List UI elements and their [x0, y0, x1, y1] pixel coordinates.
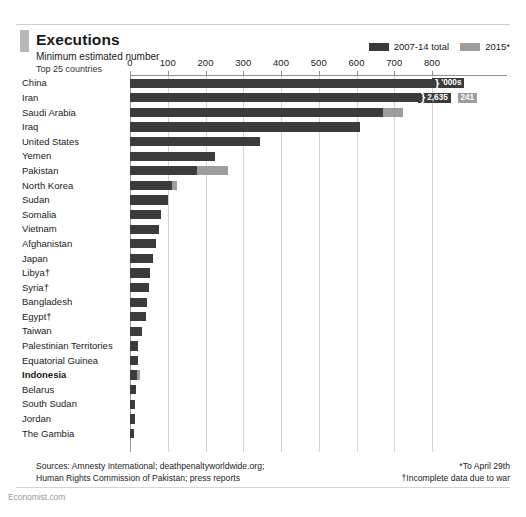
bar-segment-total — [130, 108, 383, 117]
bar-segment-2015 — [383, 108, 403, 117]
tick-label-500: 500 — [311, 57, 327, 68]
bar-segment-total — [130, 370, 137, 379]
bar-segment-total — [130, 400, 135, 409]
category-label: South Sudan — [22, 398, 126, 409]
category-label: Vietnam — [22, 223, 126, 234]
bar-row: China}'000s — [130, 76, 432, 91]
plot-area: 0100200300400500600700800 China}'000sIra… — [130, 76, 432, 450]
category-label: Palestinian Territories — [22, 340, 126, 351]
bar-segment-total — [130, 122, 360, 131]
bar-segment-total — [130, 152, 215, 161]
category-label: United States — [22, 136, 126, 147]
tick-label-100: 100 — [160, 57, 176, 68]
gridline-800 — [432, 76, 433, 452]
tick-300 — [243, 71, 244, 75]
bar-row: Iraq — [130, 120, 432, 135]
tick-label-200: 200 — [198, 57, 214, 68]
bar-value-badge-total: }'000s — [432, 78, 464, 88]
category-label: China — [22, 77, 126, 88]
bar-value-badge-total: }2,635 — [418, 93, 451, 103]
tick-700 — [394, 71, 395, 75]
bar-value-badge-2015: 241 — [458, 93, 478, 103]
bar-segment-total — [130, 268, 150, 277]
bar-row: Palestinian Territories — [130, 339, 432, 354]
legend-swatch-2015 — [460, 43, 480, 51]
category-label: Pakistan — [22, 165, 126, 176]
category-label: Yemen — [22, 150, 126, 161]
category-label: Jordan — [22, 413, 126, 424]
bar-segment-total — [130, 195, 168, 204]
bar-value-label: 241 — [461, 93, 475, 103]
tick-800 — [432, 71, 433, 75]
bar-row: The Gambia — [130, 426, 432, 441]
bar-row: Somalia — [130, 207, 432, 222]
bar-row: South Sudan — [130, 397, 432, 412]
bar-segment-total — [130, 181, 172, 190]
tick-label-600: 600 — [349, 57, 365, 68]
bottom-divider — [16, 487, 510, 488]
bar-value-label: '000s — [441, 78, 461, 88]
bar-row: Egypt† — [130, 310, 432, 325]
sources-line-2: Human Rights Commission of Pakistan; pre… — [36, 473, 264, 485]
category-label: The Gambia — [22, 428, 126, 439]
bar-segment-total — [130, 137, 260, 146]
bar-segment-total — [130, 79, 432, 88]
bar-row: Syria† — [130, 280, 432, 295]
bar-row: Sudan — [130, 193, 432, 208]
bar-row: Jordan — [130, 412, 432, 427]
bar-row: Iran}2,635241 — [130, 91, 432, 106]
bar-segment-total — [130, 239, 156, 248]
category-label: Saudi Arabia — [22, 107, 126, 118]
legend-item-2015: 2015* — [460, 41, 510, 52]
footnote-asterisk: *To April 29th — [402, 461, 510, 473]
category-label: Iraq — [22, 121, 126, 132]
bar-segment-2015 — [172, 181, 178, 190]
category-label: Afghanistan — [22, 238, 126, 249]
sources-note: Sources: Amnesty International; deathpen… — [36, 461, 264, 484]
category-label: Somalia — [22, 209, 126, 220]
page-title: Executions — [36, 31, 120, 49]
bar-row: Yemen — [130, 149, 432, 164]
legend-item-total: 2007-14 total — [369, 41, 449, 52]
chart-legend: 2007-14 total 2015* — [369, 41, 510, 52]
bar-segment-total — [130, 356, 138, 365]
bar-row: Belarus — [130, 382, 432, 397]
chart-subtitle-2: Top 25 countries — [36, 64, 102, 74]
tick-600 — [357, 71, 358, 75]
category-label: Egypt† — [22, 311, 126, 322]
chart-subtitle: Minimum estimated number — [36, 51, 159, 62]
bar-rows: China}'000sIran}2,635241Saudi ArabiaIraq… — [130, 76, 432, 441]
bar-row: Taiwan — [130, 324, 432, 339]
bar-row: Equatorial Guinea — [130, 353, 432, 368]
category-label: North Korea — [22, 180, 126, 191]
bar-row: Vietnam — [130, 222, 432, 237]
category-label: Libya† — [22, 267, 126, 278]
bar-segment-total — [130, 327, 142, 336]
bar-row: Saudi Arabia — [130, 105, 432, 120]
brand-tab — [20, 30, 29, 52]
sources-line-1: Sources: Amnesty International; deathpen… — [36, 461, 264, 473]
bar-row: United States — [130, 134, 432, 149]
tick-200 — [206, 71, 207, 75]
category-label: Indonesia — [22, 369, 126, 380]
bar-segment-total — [130, 283, 149, 292]
bar-segment-total — [130, 429, 134, 438]
tick-400 — [281, 71, 282, 75]
category-label: Syria† — [22, 282, 126, 293]
tick-500 — [319, 71, 320, 75]
tick-label-700: 700 — [386, 57, 402, 68]
bar-row: North Korea — [130, 178, 432, 193]
category-label: Equatorial Guinea — [22, 355, 126, 366]
legend-label-total: 2007-14 total — [394, 41, 449, 52]
category-label: Taiwan — [22, 325, 126, 336]
category-label: Bangladesh — [22, 296, 126, 307]
bar-segment-total — [130, 166, 197, 175]
bar-segment-total — [130, 93, 418, 102]
chart-figure: Executions Minimum estimated number Top … — [0, 0, 526, 517]
bar-segment-2015 — [197, 166, 228, 175]
tick-label-0: 0 — [127, 57, 132, 68]
category-label: Iran — [22, 92, 126, 103]
bar-segment-total — [130, 298, 147, 307]
bar-segment-total — [130, 254, 153, 263]
top-divider — [16, 24, 510, 25]
